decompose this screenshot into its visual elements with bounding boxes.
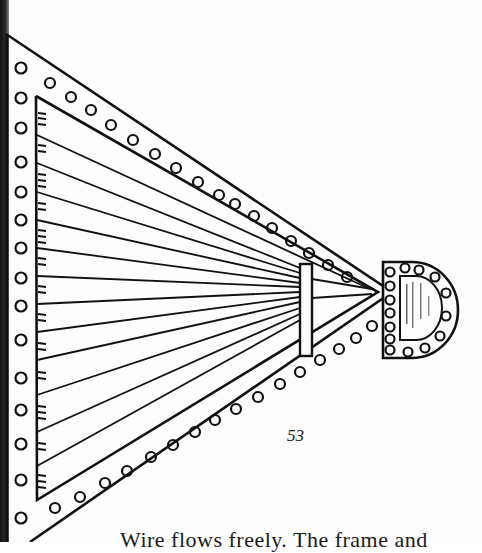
page-number: 53 — [287, 426, 304, 446]
left-column-holes — [16, 63, 27, 524]
body-text-line: Wire flows freely. The frame and — [120, 527, 428, 553]
bottom-band-holes — [50, 321, 377, 513]
outer-frame — [6, 34, 392, 542]
strings — [37, 135, 372, 466]
bridge-bar — [300, 264, 312, 356]
inner-frame — [36, 96, 378, 500]
